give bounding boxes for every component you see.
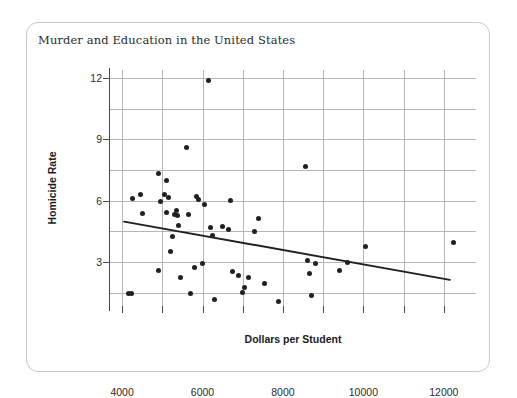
x-tick-mark (122, 306, 123, 313)
x-tick-label: 4000 (110, 386, 133, 398)
y-tick-label: 6 (96, 195, 102, 207)
y-tick-mark (103, 78, 110, 79)
x-tick-mark (243, 306, 244, 313)
x-tick-label: 6000 (191, 386, 214, 398)
x-tick-mark (283, 306, 284, 313)
x-axis-tick-labels: 4000600080001000012000 (110, 70, 476, 306)
x-tick-mark (404, 306, 405, 313)
x-tick-mark (363, 306, 364, 313)
y-axis-tick-labels: 36912 (70, 70, 102, 306)
x-tick-mark (162, 306, 163, 313)
x-tick-mark (444, 306, 445, 313)
x-tick-label: 8000 (271, 386, 294, 398)
page-title: Murder and Education in the United State… (38, 33, 295, 47)
x-axis-title: Dollars per Student (245, 333, 342, 345)
y-tick-label: 9 (96, 133, 102, 145)
y-tick-label: 12 (90, 72, 102, 84)
y-axis-title: Homicide Rate (46, 152, 58, 225)
y-tick-label: 3 (96, 256, 102, 268)
y-tick-mark (103, 139, 110, 140)
x-tick-label: 12000 (429, 386, 458, 398)
y-tick-mark (103, 201, 110, 202)
x-tick-mark (323, 306, 324, 313)
x-tick-label: 10000 (349, 386, 378, 398)
x-tick-mark (203, 306, 204, 313)
y-tick-mark (103, 262, 110, 263)
